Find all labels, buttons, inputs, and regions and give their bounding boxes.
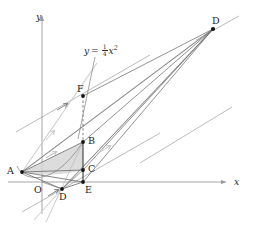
point-dot-F: [81, 94, 85, 98]
point-label-A: A: [7, 166, 14, 176]
equation-exponent: 2: [114, 44, 118, 52]
curve-equation-label: y=14x2: [84, 44, 118, 58]
equation-leader-group: [78, 57, 95, 139]
x-axis-label: x: [234, 177, 239, 187]
y-axis-label: y: [36, 12, 41, 22]
point-label-C: C: [88, 164, 95, 174]
point-label-F: F: [77, 84, 84, 94]
equation-lhs: y: [84, 46, 89, 56]
guide-line-right: [140, 107, 232, 163]
segment-O-Dlow: [42, 182, 62, 189]
fraction-denominator: 4: [102, 50, 108, 58]
point-label-D-lower: D: [59, 192, 67, 202]
point-dot-A: [20, 170, 24, 174]
point-label-D-upper: D: [212, 16, 220, 26]
point-dot-B: [81, 140, 85, 144]
equation-fraction: 14: [102, 44, 108, 58]
origin-label: O: [34, 185, 42, 195]
segments-group: [22, 96, 83, 189]
equation-leader-line: [78, 57, 95, 139]
point-dot-C: [81, 168, 85, 172]
point-label-B: B: [88, 136, 95, 146]
equation-equals: =: [91, 46, 99, 56]
point-label-E: E: [85, 185, 92, 195]
point-dot-D-upper: [211, 27, 215, 31]
parallel-guide-lines: [16, 16, 239, 212]
diagram-canvas: [0, 0, 253, 230]
geometry-figure: y x O A B C D E F D y=14x2: [0, 0, 253, 230]
